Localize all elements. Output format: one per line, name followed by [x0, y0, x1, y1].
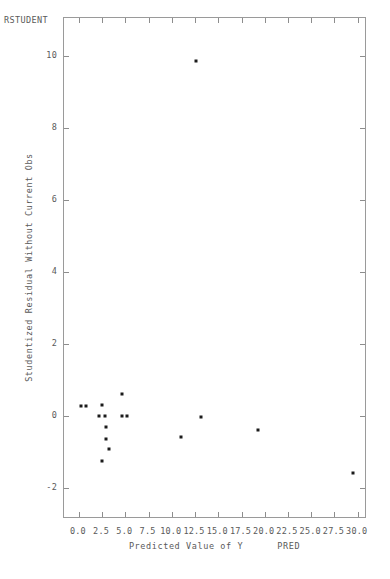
- x-tick-mark-top: [334, 18, 335, 23]
- scatter-point: [104, 426, 107, 429]
- scatter-point: [101, 404, 104, 407]
- x-tick-mark: [334, 512, 335, 517]
- y-tick-mark: [64, 416, 69, 417]
- x-axis-title: Predicted Value of YPRED: [63, 541, 366, 551]
- scatter-point: [120, 393, 123, 396]
- x-tick-mark: [311, 512, 312, 517]
- scatter-point: [257, 429, 260, 432]
- x-tick-label: 27.5: [323, 526, 344, 536]
- y-tick-mark: [64, 272, 69, 273]
- x-tick-mark: [102, 512, 103, 517]
- x-tick-mark: [172, 512, 173, 517]
- x-tick-mark-top: [358, 18, 359, 23]
- y-tick-mark-right: [360, 344, 365, 345]
- y-tick-label: -2: [31, 482, 57, 492]
- y-tick-label: 4: [31, 266, 57, 276]
- x-tick-label: 30.0: [346, 526, 367, 536]
- x-tick-label: 10.0: [160, 526, 181, 536]
- scatter-point: [352, 471, 355, 474]
- y-tick-label: 6: [31, 194, 57, 204]
- x-tick-label: 5.0: [116, 526, 132, 536]
- x-tick-mark-top: [149, 18, 150, 23]
- x-tick-label: 20.0: [253, 526, 274, 536]
- x-tick-mark: [358, 512, 359, 517]
- x-tick-label: 17.5: [230, 526, 251, 536]
- y-tick-label: 8: [31, 122, 57, 132]
- y-tick-mark: [64, 344, 69, 345]
- x-tick-mark: [265, 512, 266, 517]
- x-tick-mark: [218, 512, 219, 517]
- y-tick-mark: [64, 56, 69, 57]
- y-tick-label: 2: [31, 338, 57, 348]
- x-tick-mark-top: [311, 18, 312, 23]
- scatter-point: [79, 405, 82, 408]
- x-tick-mark-top: [102, 18, 103, 23]
- plot-frame: [63, 17, 366, 518]
- x-tick-mark: [125, 512, 126, 517]
- x-tick-mark-top: [79, 18, 80, 23]
- x-tick-mark-top: [242, 18, 243, 23]
- x-tick-mark: [149, 512, 150, 517]
- y-tick-label: 10: [31, 50, 57, 60]
- scatter-point: [180, 436, 183, 439]
- y-tick-mark-right: [360, 200, 365, 201]
- scatter-point: [107, 448, 110, 451]
- scatter-point: [104, 438, 107, 441]
- scatter-point: [103, 415, 106, 418]
- x-tick-mark: [242, 512, 243, 517]
- x-tick-mark: [288, 512, 289, 517]
- y-axis-title: Studentized Residual Without Current Obs: [24, 17, 34, 518]
- x-tick-mark-top: [172, 18, 173, 23]
- scatter-point: [199, 416, 202, 419]
- x-tick-mark-top: [265, 18, 266, 23]
- scatter-point: [101, 460, 104, 463]
- x-tick-label: 22.5: [276, 526, 297, 536]
- y-tick-mark-right: [360, 416, 365, 417]
- y-tick-mark-right: [360, 56, 365, 57]
- x-tick-mark-top: [288, 18, 289, 23]
- scatter-point: [98, 415, 101, 418]
- y-tick-mark-right: [360, 128, 365, 129]
- x-tick-mark-top: [195, 18, 196, 23]
- scatter-point: [85, 405, 88, 408]
- scatter-point: [126, 415, 129, 418]
- y-tick-mark: [64, 128, 69, 129]
- chart-canvas: RSTUDENT 0.02.55.07.510.012.515.017.520.…: [0, 0, 390, 579]
- x-tick-mark: [195, 512, 196, 517]
- scatter-point: [194, 59, 197, 62]
- x-tick-label: 12.5: [183, 526, 204, 536]
- x-tick-label: 7.5: [140, 526, 156, 536]
- x-tick-mark-top: [218, 18, 219, 23]
- x-tick-label: 0.0: [70, 526, 86, 536]
- y-tick-label: 0: [31, 410, 57, 420]
- y-tick-mark-right: [360, 272, 365, 273]
- x-axis-title-text: Predicted Value of Y: [129, 541, 243, 551]
- y-tick-mark-right: [360, 488, 365, 489]
- x-tick-mark: [79, 512, 80, 517]
- x-tick-label: 25.0: [300, 526, 321, 536]
- y-tick-mark: [64, 488, 69, 489]
- x-tick-label: 2.5: [93, 526, 109, 536]
- x-tick-label: 15.0: [207, 526, 228, 536]
- y-tick-mark: [64, 200, 69, 201]
- x-axis-variable-name: PRED: [277, 541, 300, 551]
- scatter-point: [120, 415, 123, 418]
- x-tick-mark-top: [125, 18, 126, 23]
